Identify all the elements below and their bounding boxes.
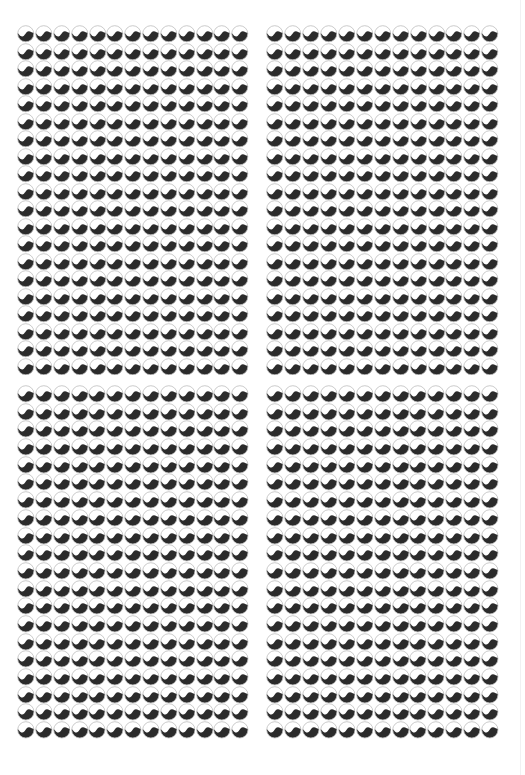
pattern-cell	[320, 200, 338, 218]
pattern-cell	[88, 25, 106, 43]
yin-yang-wave-icon	[231, 580, 249, 598]
pattern-cell	[142, 95, 160, 113]
yin-yang-wave-icon	[160, 721, 178, 739]
pattern-cell	[409, 562, 427, 580]
yin-yang-wave-icon	[392, 78, 410, 96]
yin-yang-wave-icon	[374, 703, 392, 721]
pattern-cell	[463, 340, 481, 358]
pattern-cell	[391, 668, 409, 686]
yin-yang-wave-icon	[463, 721, 481, 739]
pattern-cell	[160, 721, 178, 739]
yin-yang-wave-icon	[124, 721, 142, 739]
pattern-cell	[17, 562, 35, 580]
yin-yang-wave-icon	[392, 183, 410, 201]
pattern-cell	[481, 288, 499, 306]
yin-yang-wave-icon	[374, 43, 392, 61]
yin-yang-wave-icon	[481, 703, 499, 721]
pattern-cell	[35, 491, 53, 509]
yin-yang-wave-icon	[392, 473, 410, 491]
yin-yang-wave-icon	[392, 544, 410, 562]
pattern-cell	[231, 473, 249, 491]
pattern-cell	[160, 60, 178, 78]
pattern-cell	[160, 183, 178, 201]
yin-yang-wave-icon	[427, 562, 445, 580]
yin-yang-wave-icon	[35, 633, 53, 651]
pattern-cell	[302, 385, 320, 403]
pattern-cell	[160, 95, 178, 113]
pattern-cell	[124, 130, 142, 148]
yin-yang-wave-icon	[142, 340, 160, 358]
yin-yang-wave-icon	[53, 235, 71, 253]
pattern-cell	[445, 438, 463, 456]
pattern-cell	[356, 633, 374, 651]
yin-yang-wave-icon	[356, 703, 374, 721]
pattern-cell	[445, 527, 463, 545]
yin-yang-wave-icon	[178, 385, 196, 403]
yin-yang-wave-icon	[124, 703, 142, 721]
yin-yang-wave-icon	[284, 130, 302, 148]
yin-yang-wave-icon	[53, 305, 71, 323]
pattern-cell	[391, 253, 409, 271]
pattern-cell	[231, 305, 249, 323]
yin-yang-wave-icon	[338, 438, 356, 456]
pattern-cell	[160, 270, 178, 288]
pattern-cell	[35, 95, 53, 113]
yin-yang-wave-icon	[302, 78, 320, 96]
yin-yang-wave-icon	[266, 703, 284, 721]
yin-yang-wave-icon	[124, 130, 142, 148]
yin-yang-wave-icon	[409, 491, 427, 509]
pattern-cell	[71, 420, 89, 438]
pattern-cell	[124, 420, 142, 438]
pattern-cell	[284, 305, 302, 323]
pattern-cell	[213, 473, 231, 491]
pattern-cell	[53, 438, 71, 456]
pattern-cell	[409, 473, 427, 491]
yin-yang-wave-icon	[481, 721, 499, 739]
yin-yang-wave-icon	[338, 43, 356, 61]
pattern-cell	[35, 527, 53, 545]
yin-yang-wave-icon	[178, 218, 196, 236]
pattern-cell	[231, 385, 249, 403]
pattern-cell	[124, 668, 142, 686]
pattern-cell	[35, 270, 53, 288]
yin-yang-wave-icon	[213, 403, 231, 421]
pattern-cell	[356, 165, 374, 183]
pattern-cell	[35, 78, 53, 96]
yin-yang-wave-icon	[392, 288, 410, 306]
pattern-cell	[53, 78, 71, 96]
pattern-cell	[106, 130, 124, 148]
yin-yang-wave-icon	[302, 43, 320, 61]
yin-yang-wave-icon	[266, 235, 284, 253]
pattern-cell	[284, 95, 302, 113]
pattern-cell	[284, 615, 302, 633]
pattern-cell	[338, 25, 356, 43]
pattern-cell	[178, 544, 196, 562]
pattern-cell	[356, 218, 374, 236]
yin-yang-wave-icon	[178, 456, 196, 474]
yin-yang-wave-icon	[213, 288, 231, 306]
yin-yang-wave-icon	[302, 288, 320, 306]
yin-yang-wave-icon	[124, 385, 142, 403]
pattern-cell	[445, 130, 463, 148]
yin-yang-wave-icon	[17, 270, 35, 288]
yin-yang-wave-icon	[356, 580, 374, 598]
yin-yang-wave-icon	[142, 615, 160, 633]
yin-yang-wave-icon	[338, 385, 356, 403]
yin-yang-wave-icon	[124, 95, 142, 113]
pattern-cell	[338, 527, 356, 545]
yin-yang-wave-icon	[338, 253, 356, 271]
yin-yang-wave-icon	[71, 456, 89, 474]
yin-yang-wave-icon	[178, 544, 196, 562]
pattern-cell	[338, 403, 356, 421]
yin-yang-wave-icon	[71, 340, 89, 358]
pattern-cell	[71, 305, 89, 323]
pattern-cell	[391, 491, 409, 509]
pattern-cell	[106, 288, 124, 306]
yin-yang-wave-icon	[231, 165, 249, 183]
pattern-cell	[463, 385, 481, 403]
pattern-cell	[463, 650, 481, 668]
pattern-cell	[195, 130, 213, 148]
pattern-cell	[374, 60, 392, 78]
pattern-cell	[427, 183, 445, 201]
yin-yang-wave-icon	[35, 60, 53, 78]
